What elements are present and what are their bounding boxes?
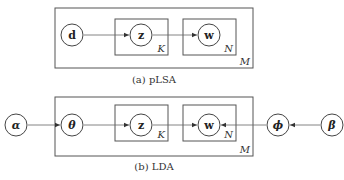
lda-plate-m-label: M	[239, 144, 251, 155]
plsa-node-w-label: w	[203, 29, 214, 42]
lda-node-theta-label: θ	[68, 119, 76, 132]
plate-diagrams: M K N d z w (a) pLSA M K N α θ z	[0, 0, 344, 180]
lda-caption: (b) LDA	[134, 161, 174, 172]
plsa-plate-m	[55, 8, 253, 68]
lda-plate-m	[55, 97, 253, 156]
lda-node-z-label: z	[138, 119, 144, 132]
lda-node-w-label: w	[203, 119, 214, 132]
plsa-plate-n-label: N	[223, 43, 234, 54]
plsa-node-d-label: d	[68, 29, 76, 42]
plsa-plate-k-label: K	[157, 43, 166, 54]
lda-plate-n-label: N	[223, 129, 234, 140]
lda-node-phi-label: ϕ	[273, 119, 284, 132]
lda-node-beta-label: β	[327, 119, 336, 132]
lda-node-alpha-label: α	[12, 119, 21, 132]
plsa-node-z-label: z	[138, 29, 144, 42]
lda-plate-k-label: K	[157, 129, 166, 140]
plsa-plate-m-label: M	[239, 56, 251, 67]
lda-diagram: M K N α θ z w ϕ β (b) LDA	[5, 97, 343, 172]
plsa-diagram: M K N d z w (a) pLSA	[55, 8, 253, 85]
plsa-caption: (a) pLSA	[132, 74, 177, 85]
